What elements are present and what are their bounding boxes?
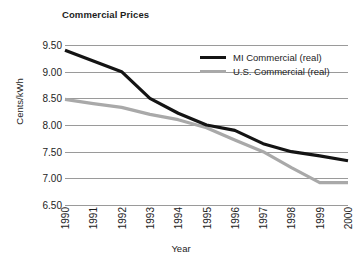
legend-item[interactable]: MI Commercial (real) <box>200 51 350 64</box>
x-tick-label: 1993 <box>145 207 156 229</box>
x-tick-label: 2000 <box>343 207 354 229</box>
x-tick-label: 1994 <box>173 207 184 229</box>
x-tick-label: 1997 <box>258 207 269 229</box>
y-axis-tick-labels: 6.507.007.508.008.509.009.50 <box>18 45 62 205</box>
x-tick-label: 1999 <box>315 207 326 229</box>
x-tick-label: 1998 <box>286 207 297 229</box>
x-axis-tick-labels: 1990199119921993199419951996199719981999… <box>65 207 348 241</box>
y-tick-label: 9.00 <box>22 66 62 77</box>
y-tick-label: 9.50 <box>22 40 62 51</box>
x-tick-label: 1996 <box>230 207 241 229</box>
series-line <box>65 99 348 182</box>
legend-swatch-icon <box>200 70 226 73</box>
x-axis-title: Year <box>0 243 362 254</box>
x-tick-label: 1990 <box>60 207 71 229</box>
legend-item[interactable]: U.S. Commercial (real) <box>200 65 350 78</box>
legend-swatch-icon <box>200 56 226 59</box>
y-tick-label: 8.00 <box>22 120 62 131</box>
chart-container: Commercial Prices Cents/kWh 6.507.007.50… <box>0 0 362 264</box>
y-tick-label: 7.50 <box>22 146 62 157</box>
y-tick-label: 6.50 <box>22 200 62 211</box>
legend-label: U.S. Commercial (real) <box>233 66 330 77</box>
x-tick-label: 1991 <box>88 207 99 229</box>
y-tick-label: 7.00 <box>22 173 62 184</box>
chart-title: Commercial Prices <box>62 9 149 20</box>
x-tick-label: 1995 <box>202 207 213 229</box>
y-tick-label: 8.50 <box>22 93 62 104</box>
chart-legend: MI Commercial (real)U.S. Commercial (rea… <box>200 51 350 79</box>
x-tick-label: 1992 <box>117 207 128 229</box>
gridline <box>65 205 348 206</box>
legend-label: MI Commercial (real) <box>233 52 322 63</box>
